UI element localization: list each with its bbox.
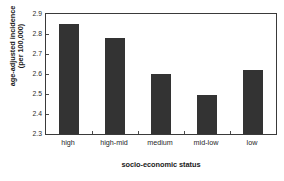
x-axis-tick-mark	[92, 131, 93, 134]
y-axis-tick-labels: 2.32.42.52.62.72.82.9	[26, 13, 42, 135]
x-axis-tick-mark	[138, 131, 139, 134]
x-axis-tick-label: high-mid	[100, 138, 128, 147]
bar	[59, 24, 80, 134]
x-axis-tick-mark	[230, 131, 231, 134]
x-axis-tick-labels: highhigh-midmediummid-lowlow	[45, 138, 277, 150]
y-axis-tick-label: 2.9	[33, 10, 42, 17]
y-axis-tick-mark	[46, 94, 49, 95]
bar	[243, 70, 264, 134]
x-axis-tick-label: low	[247, 138, 258, 147]
bar	[105, 38, 126, 134]
bar	[151, 74, 172, 134]
bar-chart-figure: age-adjusted incidence (per 100,000) 2.3…	[0, 0, 284, 181]
plot-area	[45, 13, 277, 135]
y-axis-tick-label: 2.4	[33, 110, 42, 117]
x-axis-title: socio-economic status	[45, 160, 277, 169]
y-axis-tick-label: 2.7	[33, 50, 42, 57]
y-axis-tick-mark	[46, 54, 49, 55]
x-axis-tick-label: high	[61, 138, 75, 147]
y-axis-tick-label: 2.8	[33, 30, 42, 37]
x-axis-tick-mark	[184, 131, 185, 134]
x-axis-tick-label: medium	[147, 138, 173, 147]
y-axis-tick-label: 2.6	[33, 70, 42, 77]
y-axis-tick-mark	[46, 114, 49, 115]
bar	[197, 95, 218, 134]
y-axis-title-line2: (per 100,000)	[17, 24, 25, 69]
y-axis-tick-label: 2.5	[33, 90, 42, 97]
y-axis-tick-mark	[46, 34, 49, 35]
y-axis-tick-mark	[46, 74, 49, 75]
x-axis-tick-label: mid-low	[194, 138, 219, 147]
y-axis-tick-label: 2.3	[33, 130, 42, 137]
